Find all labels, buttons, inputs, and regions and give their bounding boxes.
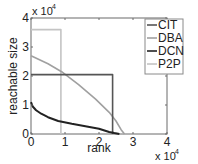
chart: 01234 01234 x 10 4 x 10 4 rank reachable… xyxy=(0,0,198,164)
y-tick-label: 1 xyxy=(22,98,29,112)
legend: CITDBADCNP2P xyxy=(145,18,184,74)
x-axis-label: rank xyxy=(87,141,111,155)
legend-label-dba: DBA xyxy=(158,31,183,45)
series-line-dcn xyxy=(31,102,119,134)
legend-label-p2p: P2P xyxy=(158,57,181,71)
x-tick-label: 3 xyxy=(130,135,137,149)
x-tick-label: 4 xyxy=(164,135,171,149)
x-tick-label: 0 xyxy=(28,135,35,149)
legend-label-cit: CIT xyxy=(158,18,178,32)
y-multiplier-exponent: 4 xyxy=(52,3,56,10)
y-multiplier: x 10 xyxy=(32,5,53,17)
legend-label-dcn: DCN xyxy=(158,44,184,58)
y-axis-label: reachable size xyxy=(6,37,20,115)
x-multiplier: x 10 xyxy=(155,150,176,162)
series-line-dba xyxy=(31,56,125,134)
series-layer xyxy=(31,30,125,134)
y-tick-label: 4 xyxy=(22,11,29,25)
series-line-p2p xyxy=(31,30,61,134)
x-tick-label: 1 xyxy=(62,135,69,149)
y-tick-label: 2 xyxy=(22,69,29,83)
y-tick-label: 3 xyxy=(22,40,29,54)
x-multiplier-exponent: 4 xyxy=(175,148,179,155)
